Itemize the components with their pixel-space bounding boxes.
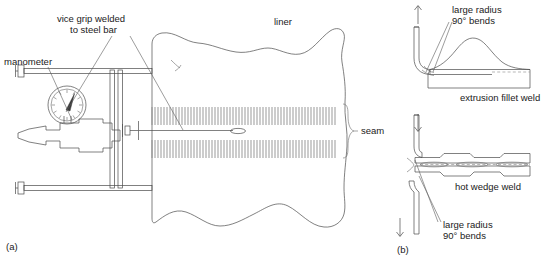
technical-diagram: vice grip welded to steel bar manometer … [0,0,543,261]
figure-page: vice grip welded to steel bar manometer … [0,0,543,261]
hot-wedge-weld-detail: hot wedge weld large radius 90° bends [397,114,531,241]
label-seam: seam [361,125,384,136]
label-hot-wedge-weld: hot wedge weld [455,181,521,192]
manometer-gauge [48,86,86,124]
flow-arrow-up-top [415,6,422,25]
flow-arrow-down-bottom [397,218,404,237]
caption-b: (b) [397,244,409,255]
extrusion-fillet-weld-detail: large radius 90° bends extrusion fillet … [414,4,540,103]
label-extrusion-fillet-weld: extrusion fillet weld [460,92,540,103]
label-large-radius-top-line1: large radius [452,4,502,15]
label-manometer: manometer [4,56,52,67]
lower-steel-bar [16,182,153,194]
panel-a: vice grip welded to steel bar manometer … [4,13,384,252]
label-large-radius-bottom-line2: 90° bends [443,230,486,241]
label-liner: liner [274,16,292,27]
label-large-radius-bottom-line1: large radius [443,219,493,230]
seam-hatch-upper [152,107,335,125]
flow-arrow-down-top [415,114,422,132]
caption-a: (a) [6,241,18,252]
label-vice-grip-line2: to steel bar [70,24,117,35]
seam-hatch-lower [152,140,335,158]
liner-sheet [152,29,347,228]
label-large-radius-top-line2: 90° bends [452,15,495,26]
label-vice-grip-line1: vice grip welded [57,13,125,24]
panel-b: large radius 90° bends extrusion fillet … [397,4,541,255]
